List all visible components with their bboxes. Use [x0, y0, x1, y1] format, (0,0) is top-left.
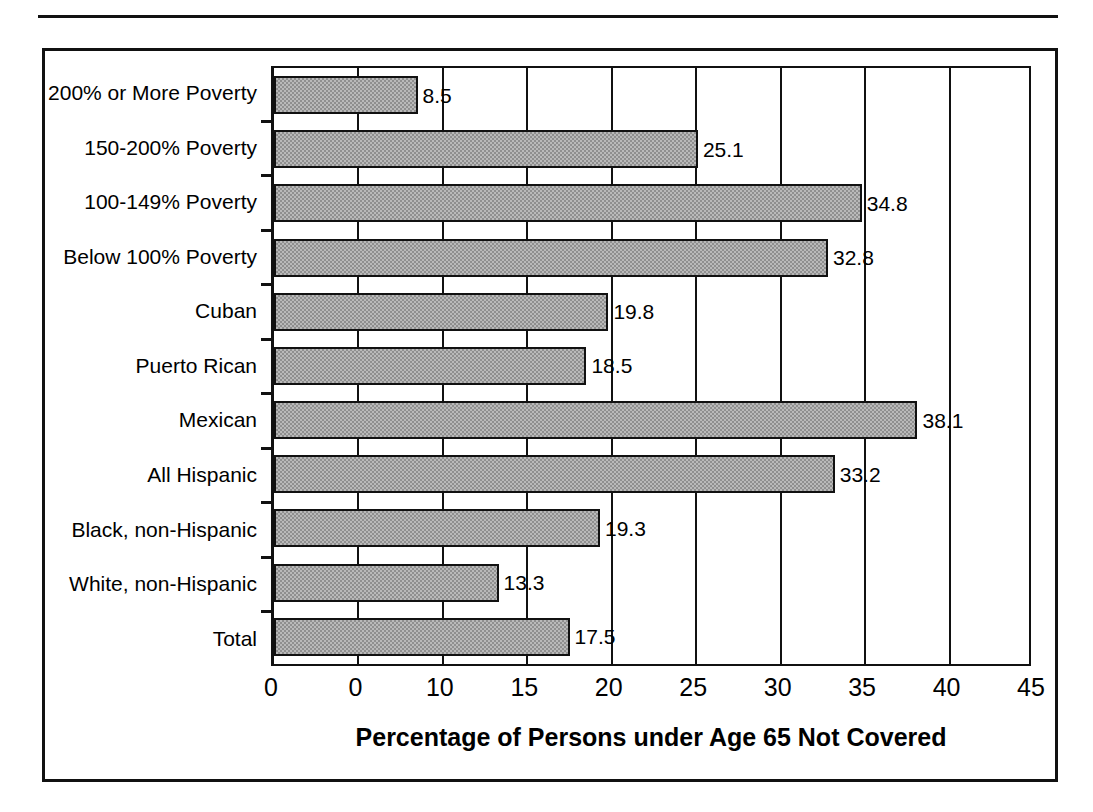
bar-value-label: 17.5	[575, 626, 616, 647]
y-axis-label: All Hispanic	[45, 456, 265, 494]
bar-row: 33.2	[274, 455, 1029, 493]
bar-row: 32.8	[274, 239, 1029, 277]
bar	[274, 455, 835, 493]
bar-row: 34.8	[274, 184, 1029, 222]
x-axis-tick-label: 30	[764, 673, 792, 702]
bar	[274, 293, 608, 331]
y-axis-label: White, non-Hispanic	[45, 565, 265, 603]
bar-row: 18.5	[274, 347, 1029, 385]
bar-value-label: 25.1	[703, 139, 744, 160]
x-axis-tick-label: 45	[1017, 673, 1045, 702]
figure-frame: 200% or More Poverty150-200% Poverty100-…	[42, 48, 1058, 782]
bar-value-label: 33.2	[840, 464, 881, 485]
bar-row: 19.8	[274, 293, 1029, 331]
bar	[274, 401, 917, 439]
y-axis-tick	[261, 447, 273, 450]
x-axis-tick-labels: 001015202530354045	[271, 673, 1031, 713]
y-axis-label: Puerto Rican	[45, 347, 265, 385]
bar-value-label: 13.3	[504, 572, 545, 593]
y-axis-label: Cuban	[45, 292, 265, 330]
y-axis-label: 150-200% Poverty	[45, 129, 265, 167]
y-axis-tick	[261, 556, 273, 559]
bar-chart: 200% or More Poverty150-200% Poverty100-…	[45, 51, 1055, 779]
bar-rows: 8.525.134.832.819.818.538.133.219.313.31…	[274, 68, 1029, 664]
y-axis-tick	[261, 174, 273, 177]
bar-value-label: 34.8	[867, 193, 908, 214]
y-axis-tick	[261, 229, 273, 232]
y-axis-tick	[261, 283, 273, 286]
y-axis-label: Mexican	[45, 401, 265, 439]
top-horizontal-rule	[38, 15, 1058, 18]
bar	[274, 76, 418, 114]
x-axis-tick-label: 35	[848, 673, 876, 702]
bar-row: 38.1	[274, 401, 1029, 439]
y-axis-tick	[261, 392, 273, 395]
y-axis-label: Total	[45, 620, 265, 658]
bar-row: 25.1	[274, 130, 1029, 168]
bar	[274, 130, 698, 168]
bar	[274, 564, 499, 602]
y-axis-label: Black, non-Hispanic	[45, 511, 265, 549]
bar-value-label: 19.8	[613, 301, 654, 322]
bar	[274, 347, 586, 385]
x-axis-tick-label: 40	[933, 673, 961, 702]
x-axis-tick-label: 0	[348, 673, 362, 702]
bar-value-label: 19.3	[605, 518, 646, 539]
x-axis-title: Percentage of Persons under Age 65 Not C…	[271, 723, 1031, 752]
y-axis-tick	[261, 338, 273, 341]
y-axis-label: 200% or More Poverty	[45, 74, 265, 112]
bar-value-label: 18.5	[591, 355, 632, 376]
y-axis-tick	[261, 120, 273, 123]
y-axis-label: 100-149% Poverty	[45, 183, 265, 221]
y-axis-tick	[261, 610, 273, 613]
bar-row: 13.3	[274, 564, 1029, 602]
x-axis-tick-label: 25	[679, 673, 707, 702]
bar	[274, 509, 600, 547]
bar-value-label: 38.1	[922, 410, 963, 431]
bar-value-label: 32.8	[833, 247, 874, 268]
bar	[274, 184, 862, 222]
bar	[274, 239, 828, 277]
y-axis-tick	[261, 501, 273, 504]
bar-row: 19.3	[274, 509, 1029, 547]
x-axis-tick-label: 0	[264, 673, 278, 702]
bar	[274, 618, 570, 656]
x-axis-tick-label: 20	[595, 673, 623, 702]
y-axis-category-labels: 200% or More Poverty150-200% Poverty100-…	[45, 66, 265, 666]
plot-area: 8.525.134.832.819.818.538.133.219.313.31…	[271, 66, 1031, 666]
bar-value-label: 8.5	[423, 85, 452, 106]
bar-row: 17.5	[274, 618, 1029, 656]
y-axis-label: Below 100% Poverty	[45, 238, 265, 276]
x-axis-tick-label: 10	[426, 673, 454, 702]
bar-row: 8.5	[274, 76, 1029, 114]
x-axis-tick-label: 15	[510, 673, 538, 702]
